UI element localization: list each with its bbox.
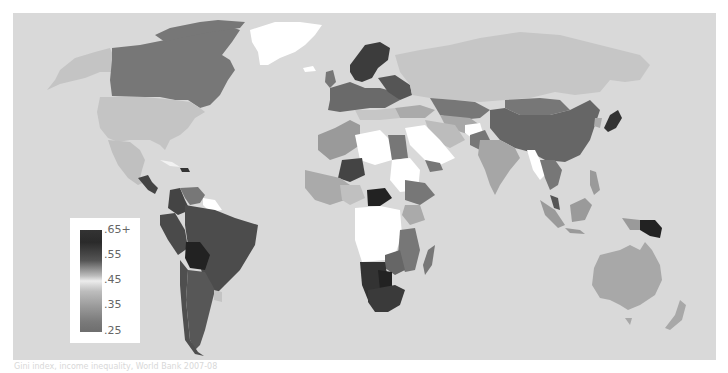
region-uk: [325, 70, 336, 88]
region-iceland: [303, 66, 316, 72]
region-alaska: [47, 48, 115, 90]
region-png: [640, 220, 662, 238]
region-niger: [338, 158, 365, 182]
region-new-zealand: [665, 300, 686, 330]
region-cuba: [160, 160, 180, 167]
region-scandinavia: [350, 42, 390, 82]
region-north-africa-west: [318, 120, 360, 160]
region-japan: [604, 110, 622, 132]
region-southern-europe: [355, 108, 400, 120]
region-east-africa: [402, 205, 425, 225]
region-greenland: [250, 22, 322, 65]
region-ethiopia: [405, 180, 435, 205]
region-madagascar: [423, 245, 435, 275]
region-australia: [592, 242, 662, 310]
region-russia: [395, 32, 650, 102]
region-haiti-dr: [180, 168, 190, 172]
region-central-african-rep: [367, 188, 392, 206]
region-sumatra: [540, 200, 565, 228]
legend-label-55: .55: [104, 249, 122, 261]
region-new-guinea-west: [622, 218, 640, 230]
legend-label-top: .65+: [104, 224, 131, 236]
region-philippines: [590, 170, 600, 195]
region-borneo: [570, 198, 592, 222]
region-turkey: [395, 105, 435, 118]
region-central-america: [138, 175, 158, 194]
region-tasmania: [625, 318, 632, 325]
map-caption: Gini index, income inequality, World Ban…: [14, 362, 217, 371]
region-south-africa: [368, 285, 405, 312]
legend-label-45: .45: [104, 274, 122, 286]
region-korea: [594, 118, 602, 128]
legend-label-25: .25: [104, 325, 122, 337]
region-uruguay: [214, 290, 222, 302]
legend-gradient-bar: [80, 230, 102, 332]
legend: .65+ .55 .45 .35 .25: [70, 218, 140, 343]
legend-label-35: .35: [104, 299, 122, 311]
region-java: [565, 228, 585, 234]
world-map: .65+ .55 .45 .35 .25: [13, 13, 716, 360]
region-peru: [160, 213, 188, 255]
region-nigeria: [340, 185, 365, 205]
region-india: [478, 140, 520, 195]
